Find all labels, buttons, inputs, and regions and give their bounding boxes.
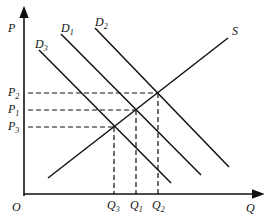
d1-label: D1 <box>60 21 74 37</box>
q3-label: Q3 <box>107 198 120 214</box>
q2-label: Q2 <box>152 198 165 214</box>
supply-label: S <box>232 24 238 38</box>
demand-curve-d1 <box>61 34 201 175</box>
p2-label: P2 <box>7 85 19 101</box>
origin-label: O <box>12 200 21 214</box>
q1-label: Q1 <box>130 198 143 214</box>
y-axis-label: P <box>7 21 16 35</box>
supply-curve <box>48 38 228 178</box>
x-axis-label: Q <box>246 201 255 215</box>
p1-label: P1 <box>7 102 19 118</box>
d3-label: D3 <box>34 37 48 53</box>
demand-curve-d3 <box>39 50 171 183</box>
demand-curve-d2 <box>95 28 229 167</box>
p3-label: P3 <box>7 119 19 135</box>
d2-label: D2 <box>94 15 108 31</box>
supply-demand-diagram: P Q O S D3 D1 D2 P2 P1 P3 Q3 Q1 Q2 <box>0 0 268 220</box>
